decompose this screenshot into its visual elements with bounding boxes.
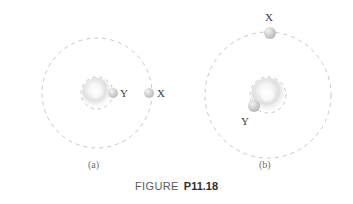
figure-caption: FIGUREP11.18 [0, 180, 353, 192]
body-sphere-x-b [264, 27, 276, 39]
figure-caption-number: P11.18 [184, 180, 218, 192]
body-sphere-y-b [248, 100, 260, 112]
figure-p11-18: Y X (a) [0, 0, 353, 204]
central-body-core-b [261, 88, 275, 102]
body-label-x-b: X [265, 12, 273, 23]
figure-caption-word: FIGURE [135, 180, 179, 192]
panel-label-b: (b) [259, 160, 271, 170]
panel-b-orbit-diagram [0, 0, 353, 204]
body-label-y-b: Y [241, 116, 249, 127]
